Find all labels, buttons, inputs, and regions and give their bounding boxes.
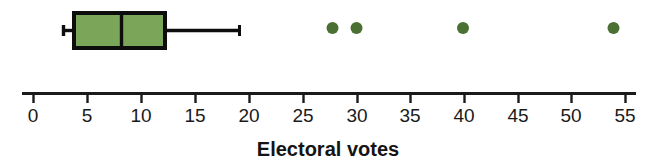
x-tick-label: 15	[184, 105, 205, 126]
x-tick-label: 40	[453, 105, 474, 126]
x-tick-label: 55	[614, 105, 635, 126]
x-tick-label: 20	[238, 105, 259, 126]
x-tick-label: 45	[507, 105, 528, 126]
outlier-point	[351, 22, 363, 34]
x-tick-label: 50	[560, 105, 581, 126]
boxplot-canvas: 0 5 10 15 20 25 30 35 40 45 50 55 Electo…	[0, 0, 648, 163]
outlier-point	[327, 22, 339, 34]
outlier-point	[457, 22, 469, 34]
outlier-point	[608, 22, 620, 34]
x-tick-label: 35	[399, 105, 420, 126]
x-tick-label: 5	[82, 105, 93, 126]
x-tick-label: 30	[346, 105, 367, 126]
x-tick-label: 10	[130, 105, 151, 126]
x-axis-title: Electoral votes	[257, 138, 399, 160]
x-tick-label: 25	[292, 105, 313, 126]
boxplot-figure: 0 5 10 15 20 25 30 35 40 45 50 55 Electo…	[0, 0, 648, 163]
x-tick-label: 0	[28, 105, 39, 126]
box-body	[74, 13, 165, 48]
